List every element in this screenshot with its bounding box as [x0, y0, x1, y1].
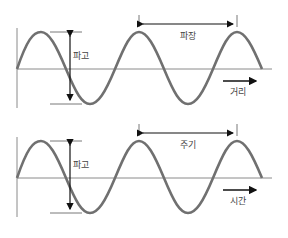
wave-panel-time: 파고 주기 시간	[0, 119, 288, 238]
sine-wave	[17, 32, 262, 104]
wave-panel-distance: 파고 파장 거리	[0, 0, 288, 119]
wavelength-label: 파장	[180, 29, 196, 42]
distance-axis-label: 거리	[230, 85, 246, 98]
wave-diagram-distance	[0, 0, 288, 119]
amplitude-label: 파고	[73, 158, 89, 171]
time-axis-label: 시간	[230, 194, 246, 207]
period-label: 주기	[180, 138, 196, 151]
wave-diagram-time	[0, 119, 288, 238]
amplitude-label: 파고	[73, 49, 89, 62]
sine-wave	[17, 141, 262, 213]
